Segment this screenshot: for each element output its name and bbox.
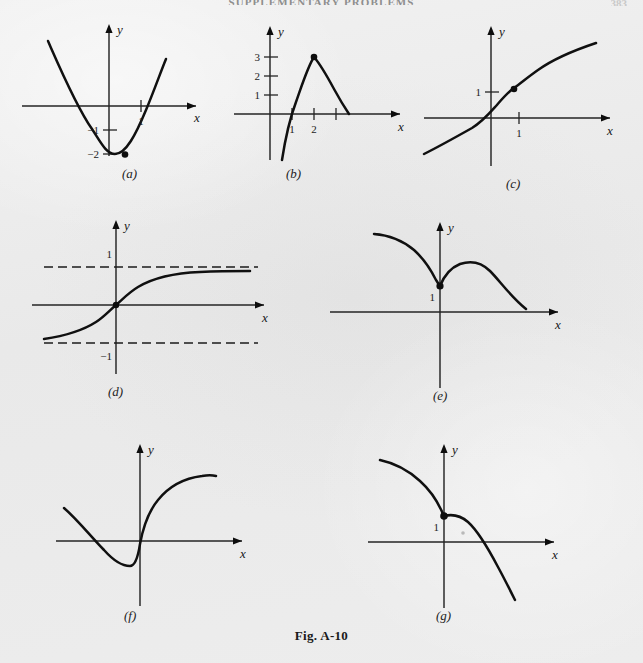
panel-label-g: (g) (436, 608, 451, 624)
ticks-c (485, 92, 519, 124)
y-tick-label-neg1-a: −1 (87, 124, 99, 136)
y-axis-arrow-e (436, 222, 443, 231)
panel-label-a: (a) (122, 166, 137, 182)
y-axis-arrow-b (266, 26, 273, 35)
figure-panel-c: 1 1 x y (c) (424, 14, 634, 174)
x-axis-arrow-f (233, 537, 242, 544)
x-tick-label-1-b: 1 (289, 123, 295, 135)
y-axis-label-g: y (450, 442, 458, 457)
x-axis-arrow-c (601, 114, 610, 121)
plot-b: 1 2 3 1 2 x y (228, 14, 418, 164)
curve-g-right-branch (444, 515, 515, 600)
figure-panel-a: 1 −1 −2 x y (a) (14, 14, 214, 164)
y-axis-label-b: y (276, 24, 284, 39)
figure-panel-b: 1 2 3 1 2 x y (b) (228, 14, 418, 164)
panel-label-e: (e) (433, 388, 447, 404)
figure-panel-g: 1 x y (g) (358, 432, 598, 612)
y-tick-label-1-e: 1 (430, 291, 436, 303)
y-tick-label-3-b: 3 (255, 51, 261, 63)
x-axis-label-a: x (193, 110, 200, 125)
x-axis-arrow-b (391, 110, 400, 117)
x-axis-arrow-g (545, 538, 554, 545)
x-tick-label-2-b: 2 (311, 123, 317, 135)
x-axis-label-d: x (261, 310, 268, 325)
y-axis-label-d: y (122, 218, 130, 233)
vertex-dot-a (122, 151, 129, 158)
axes-d (32, 220, 264, 374)
x-tick-label-1-a: 1 (138, 115, 144, 127)
y-axis-arrow-f (136, 444, 143, 453)
y-tick-label-1-g: 1 (434, 521, 440, 533)
inflection-dot-c (511, 86, 518, 93)
figure-panel-e: 1 x y (e) (330, 212, 580, 392)
plot-g: 1 x y (358, 432, 598, 612)
x-tick-label-1-c: 1 (516, 127, 522, 139)
x-axis-arrow-a (187, 102, 196, 109)
running-head: SUPPLEMENTARY PROBLEMS (0, 0, 643, 5)
plot-d: 1 −1 x y (20, 212, 280, 382)
y-axis-arrow-c (487, 26, 494, 35)
plot-f: x y (38, 432, 278, 612)
curve-c (424, 43, 596, 154)
cusp-dot-e (436, 282, 443, 289)
x-axis-label-b: x (397, 119, 404, 134)
y-tick-label-1-b: 1 (255, 89, 261, 101)
figure-caption: Fig. A-10 (0, 628, 643, 644)
curve-e-right-branch (440, 262, 526, 309)
y-axis-label-a: y (115, 22, 123, 37)
y-axis-arrow-a (105, 24, 112, 33)
x-axis-label-f: x (239, 546, 246, 561)
y-axis-label-e: y (446, 220, 454, 235)
y-axis-arrow-d (112, 220, 119, 229)
x-axis-label-e: x (554, 317, 561, 332)
y-tick-label-neg2-a: −2 (87, 148, 99, 160)
paper-speck-g (461, 531, 465, 535)
panel-label-f: (f) (124, 608, 136, 624)
plot-c: 1 1 x y (424, 14, 634, 174)
axes-g (368, 444, 554, 608)
curve-e-left-branch (374, 234, 440, 286)
figure-panel-d: 1 −1 x y (d) (20, 212, 280, 382)
y-axis-label-f: y (146, 442, 154, 457)
axes-e (330, 222, 558, 388)
y-tick-label-1-c: 1 (476, 86, 482, 98)
figure-panel-f: x y (f) (38, 432, 278, 612)
plot-a: 1 −1 −2 x y (14, 14, 214, 164)
x-axis-label-g: x (551, 547, 558, 562)
y-axis-label-c: y (497, 24, 505, 39)
x-axis-arrow-e (549, 308, 558, 315)
corner-dot-g (440, 512, 448, 520)
y-tick-label-2-b: 2 (255, 70, 261, 82)
y-axis-arrow-g (440, 444, 447, 453)
panel-label-c: (c) (506, 176, 520, 192)
panel-label-b: (b) (286, 166, 301, 182)
page-number: 383 (611, 0, 628, 6)
panel-label-d: (d) (108, 384, 123, 400)
y-tick-label-neg1-d: −1 (100, 350, 112, 362)
axes-f (56, 444, 242, 606)
plot-e: 1 x y (330, 212, 580, 392)
origin-dot-d (113, 302, 119, 308)
curve-a (48, 41, 166, 154)
x-axis-arrow-d (255, 301, 264, 308)
y-tick-label-1-d: 1 (107, 248, 113, 260)
x-axis-label-c: x (606, 123, 613, 138)
vertex-dot-b (311, 54, 318, 61)
curve-g-left-branch (380, 460, 444, 516)
